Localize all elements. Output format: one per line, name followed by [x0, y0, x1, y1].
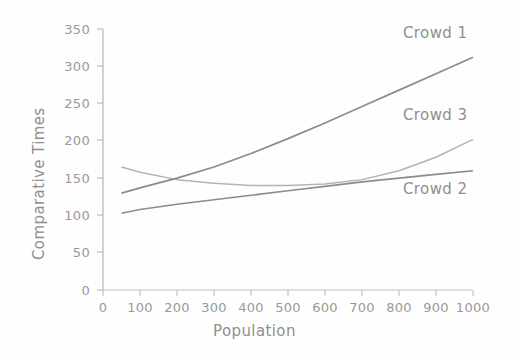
series-label-crowd-3: Crowd 3: [403, 106, 467, 124]
y-tick-label-0: 0: [48, 283, 90, 298]
y-tick-label-250: 250: [48, 96, 90, 111]
y-tick-label-350: 350: [48, 22, 90, 37]
y-tick-label-300: 300: [48, 59, 90, 74]
x-tick-label-100: 100: [120, 300, 160, 315]
x-tick-label-0: 0: [83, 300, 123, 315]
x-tick-label-700: 700: [342, 300, 382, 315]
x-axis-title: Population: [213, 322, 296, 340]
x-tick-label-900: 900: [416, 300, 456, 315]
x-tick-marks: [103, 290, 473, 296]
y-tick-label-150: 150: [48, 171, 90, 186]
y-tick-marks: [97, 29, 103, 290]
x-tick-label-300: 300: [194, 300, 234, 315]
series-label-crowd-2: Crowd 2: [403, 180, 467, 198]
y-tick-label-200: 200: [48, 133, 90, 148]
x-tick-label-400: 400: [231, 300, 271, 315]
series-line-crowd-1: [122, 57, 474, 193]
y-tick-label-100: 100: [48, 208, 90, 223]
x-tick-label-1000: 1000: [453, 300, 493, 315]
x-tick-label-800: 800: [379, 300, 419, 315]
line-chart: 350 300 250 200 150 100 50 0 0 100 200 3…: [0, 0, 518, 358]
x-tick-label-500: 500: [268, 300, 308, 315]
series-label-crowd-1: Crowd 1: [403, 24, 467, 42]
x-tick-label-200: 200: [157, 300, 197, 315]
x-tick-label-600: 600: [305, 300, 345, 315]
y-tick-label-50: 50: [48, 245, 90, 260]
y-axis-title: Comparative Times: [30, 107, 48, 260]
